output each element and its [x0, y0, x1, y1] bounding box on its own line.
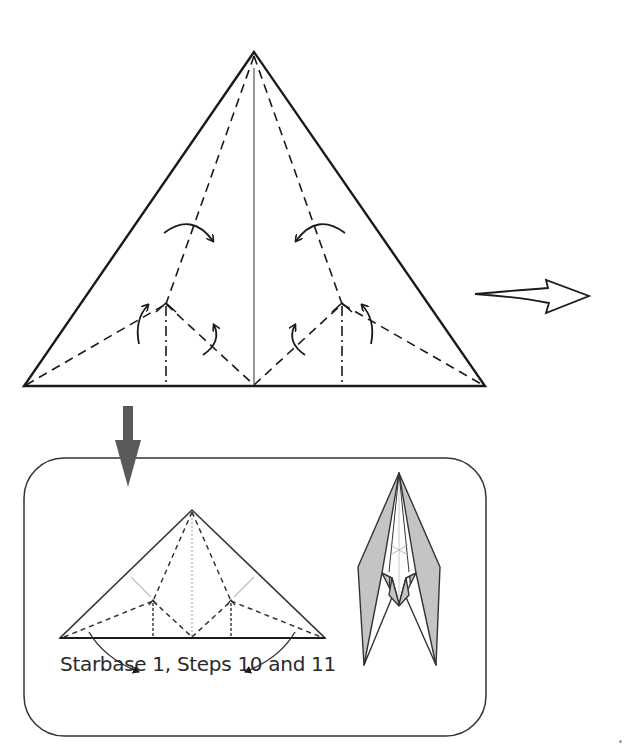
reference-down-arrow-icon	[115, 406, 141, 487]
valley-fold-rc	[254, 304, 342, 385]
fold-arrow-left-icon	[164, 224, 213, 241]
folding-diagram	[0, 0, 631, 746]
valley-fold-bl	[26, 304, 166, 385]
valley-fold-lc	[166, 304, 254, 385]
inset-triangle	[60, 510, 325, 672]
valley-fold-left	[166, 56, 254, 304]
next-step-arrow-icon	[475, 280, 589, 313]
main-step-triangle	[24, 52, 485, 386]
valley-fold-br	[342, 304, 483, 385]
small-arrow-1-icon	[138, 305, 148, 344]
fold-arrow-right-icon	[296, 224, 345, 241]
small-arrow-4-icon	[362, 305, 372, 344]
folded-model-icon	[358, 473, 440, 665]
valley-fold-right	[254, 56, 342, 304]
scan-speck	[619, 740, 622, 743]
inset-caption: Starbase 1, Steps 10 and 11	[60, 652, 336, 676]
